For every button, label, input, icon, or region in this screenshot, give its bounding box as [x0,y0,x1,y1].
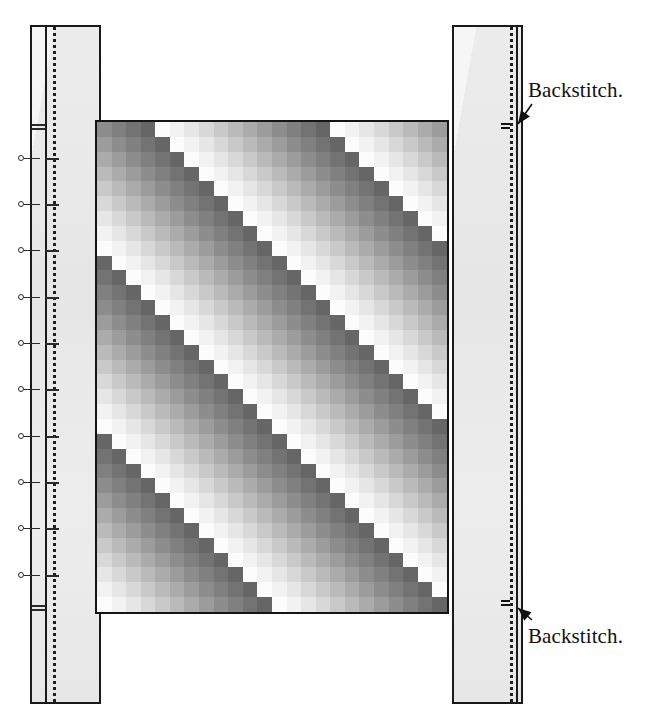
backstitch-label-top: Backstitch. [528,78,623,103]
annotation-leader-lines [0,0,653,720]
figure-canvas: Backstitch. Backstitch. [0,0,653,720]
backstitch-label-bottom: Backstitch. [528,624,623,649]
